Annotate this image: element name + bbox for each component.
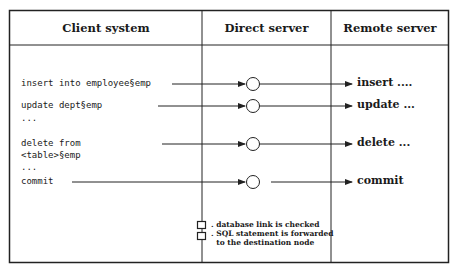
- client-statement-delete: delete from: [21, 138, 81, 149]
- checkpoint-circle-icon: [247, 78, 260, 91]
- column-header-remote: Remote server: [331, 10, 449, 45]
- checkpoint-circle-icon: [247, 176, 260, 189]
- checkpoint-circle-icon: [247, 138, 260, 151]
- legend-square-icon: [198, 222, 206, 229]
- client-statement-commit: commit: [21, 176, 54, 187]
- checkpoint-circle-icon: [247, 100, 260, 113]
- flow-commit: [72, 176, 352, 189]
- remote-action-delete: delete ...: [357, 137, 410, 149]
- flow-insert: [172, 78, 352, 91]
- client-statement-ellipsis: ...: [21, 162, 37, 173]
- legend-database-link-checked: . database link is checked: [211, 220, 320, 229]
- legend-square-icon: [198, 233, 206, 240]
- client-statement-delete-table: <table>§emp: [21, 150, 81, 161]
- sql-forwarding-diagram: Client system Direct server Remote serve…: [0, 0, 455, 270]
- column-header-direct: Direct server: [202, 10, 331, 45]
- flow-update: [158, 100, 352, 113]
- column-header-client: Client system: [10, 10, 202, 45]
- legend-sql-forwarded: . SQL statement is forwarded: [211, 229, 333, 238]
- remote-action-insert: insert ....: [357, 77, 412, 89]
- client-statement-ellipsis: ...: [21, 113, 37, 124]
- remote-action-commit: commit: [357, 175, 404, 187]
- remote-action-update: update ...: [357, 99, 415, 111]
- client-statement-insert: insert into employee§emp: [21, 78, 151, 89]
- flow-delete: [162, 138, 352, 151]
- client-statement-update: update dept§emp: [21, 100, 102, 111]
- legend-destination-node: to the destination node: [211, 238, 314, 247]
